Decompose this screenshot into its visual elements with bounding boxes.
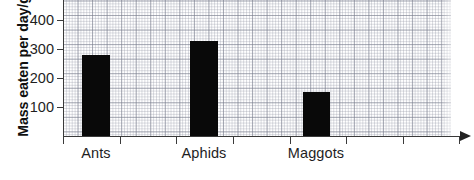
x-tick-0 [63, 137, 64, 144]
x-tick-7 [459, 137, 460, 144]
x-label-ants: Ants [56, 145, 136, 161]
bar-aphids [190, 41, 218, 136]
x-tick-3 [233, 137, 234, 144]
bar-chart: 400 300 200 100 Ants Aphids Maggots Mass… [0, 0, 474, 180]
y-tick-100 [57, 107, 64, 108]
x-axis-arrow-icon [460, 131, 471, 141]
bar-ants [82, 55, 110, 136]
x-tick-5 [346, 137, 347, 144]
y-tick-400 [57, 20, 64, 21]
y-tick-300 [57, 49, 64, 50]
x-tick-2 [176, 137, 177, 144]
bar-maggots [303, 92, 330, 136]
x-label-maggots: Maggots [276, 145, 356, 161]
paper-edge-fade [440, 0, 474, 140]
x-tick-1 [120, 137, 121, 144]
x-label-aphids: Aphids [164, 145, 244, 161]
x-tick-4 [290, 137, 291, 144]
y-axis-title: Mass eaten per day/g [15, 0, 31, 141]
x-tick-6 [403, 137, 404, 144]
y-tick-200 [57, 78, 64, 79]
graph-paper-grid [63, 0, 451, 137]
